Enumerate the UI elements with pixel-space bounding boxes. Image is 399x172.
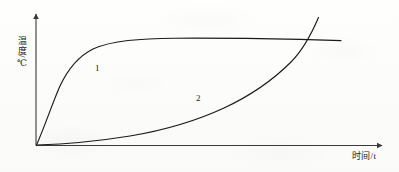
temperature-time-figure: 温度/℃ 时间/t 1 2 [0, 0, 399, 172]
curve-2-path [37, 18, 319, 146]
curve-1-path [37, 38, 342, 145]
plot-canvas [0, 0, 399, 172]
curve-1-label: 1 [95, 64, 100, 73]
x-axis-label: 时间/t [352, 152, 376, 161]
curve-2-label: 2 [196, 94, 201, 103]
y-axis-label: 温度/℃ [14, 36, 26, 69]
